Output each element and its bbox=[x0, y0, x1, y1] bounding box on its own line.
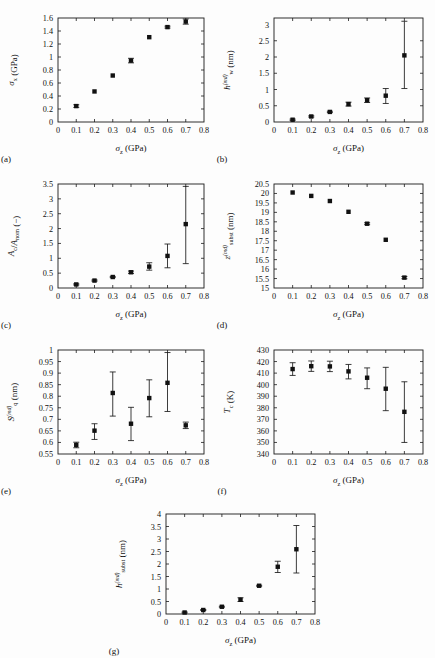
x-axis-label: σz (GPa) bbox=[333, 143, 364, 155]
y-tick-label: 0.55 bbox=[39, 450, 53, 459]
y-tick-label: 0 bbox=[265, 118, 269, 127]
panel-g: 00.10.20.30.40.50.60.70.800.511.522.533.… bbox=[108, 500, 327, 658]
plot-frame bbox=[58, 18, 204, 122]
data-point-marker bbox=[184, 222, 188, 226]
data-point-marker bbox=[402, 53, 406, 57]
x-tick-label: 0 bbox=[272, 126, 276, 135]
x-tick-label: 0.3 bbox=[325, 292, 335, 301]
data-point-marker bbox=[111, 275, 115, 279]
y-tick-label: 0.8 bbox=[43, 66, 53, 75]
x-tick-label: 0.3 bbox=[217, 618, 227, 627]
x-tick-label: 0.7 bbox=[399, 126, 409, 135]
y-tick-label: 0.75 bbox=[39, 404, 53, 413]
x-tick-label: 0.4 bbox=[126, 126, 136, 135]
panel-b: 00.10.20.30.40.50.60.70.800.511.522.53σz… bbox=[216, 4, 435, 166]
x-tick-label: 0.1 bbox=[71, 292, 81, 301]
data-point-marker bbox=[129, 58, 133, 62]
x-tick-label: 0.4 bbox=[235, 618, 245, 627]
x-tick-label: 0.1 bbox=[288, 126, 298, 135]
data-point-marker bbox=[384, 387, 388, 391]
y-tick-label: 20.5 bbox=[255, 180, 269, 189]
x-tick-label: 0.1 bbox=[288, 458, 298, 467]
y-axis-label: Ac/Anom (−) bbox=[6, 216, 21, 258]
y-axis-label: σx (GPa) bbox=[6, 54, 19, 85]
data-series bbox=[182, 526, 300, 615]
data-point-marker bbox=[129, 422, 133, 426]
y-tick-label: 17.5 bbox=[255, 237, 269, 246]
data-point-marker bbox=[290, 190, 294, 194]
panel-plot-b: 00.10.20.30.40.50.60.70.800.511.522.53σz… bbox=[216, 4, 435, 166]
y-tick-label: 0.7 bbox=[43, 415, 53, 424]
data-point-marker bbox=[257, 584, 261, 588]
y-tick-label: 0.6 bbox=[43, 79, 53, 88]
data-point-marker bbox=[294, 547, 298, 551]
x-tick-label: 0.4 bbox=[343, 458, 353, 467]
data-point-marker bbox=[92, 428, 96, 432]
x-tick-label: 0.5 bbox=[362, 458, 372, 467]
y-tick-label: 20 bbox=[261, 189, 269, 198]
y-tick-label: 4 bbox=[157, 510, 161, 519]
panel-plot-d: 00.10.20.30.40.50.60.70.81515.51616.5171… bbox=[216, 170, 435, 332]
y-tick-label: 2 bbox=[265, 53, 269, 62]
y-tick-label: 2 bbox=[49, 225, 53, 234]
data-point-marker bbox=[92, 89, 96, 93]
panel-tag-e: (e) bbox=[1, 486, 11, 496]
y-tick-label: 350 bbox=[257, 438, 269, 447]
x-tick-label: 0 bbox=[272, 292, 276, 301]
x-axis-label: σz (GPa) bbox=[115, 309, 146, 321]
x-tick-label: 0.3 bbox=[108, 292, 118, 301]
y-tick-label: 0.65 bbox=[39, 427, 53, 436]
x-tick-label: 0.6 bbox=[162, 292, 172, 301]
x-tick-label: 0 bbox=[56, 458, 60, 467]
panel-tag-b: (b) bbox=[217, 154, 228, 164]
x-tick-label: 0.8 bbox=[418, 458, 428, 467]
x-tick-label: 0.1 bbox=[288, 292, 298, 301]
y-tick-label: 1 bbox=[49, 346, 53, 355]
data-series bbox=[73, 353, 189, 448]
y-tick-label: 380 bbox=[257, 404, 269, 413]
y-tick-label: 16 bbox=[261, 265, 269, 274]
x-tick-label: 0.2 bbox=[89, 126, 99, 135]
x-tick-label: 0.5 bbox=[362, 126, 372, 135]
x-tick-label: 0.4 bbox=[126, 458, 136, 467]
data-point-marker bbox=[384, 93, 388, 97]
y-tick-label: 400 bbox=[257, 381, 269, 390]
y-tick-label: 370 bbox=[257, 415, 269, 424]
x-tick-label: 0.3 bbox=[108, 458, 118, 467]
data-point-marker bbox=[346, 102, 350, 106]
y-tick-label: 0.6 bbox=[43, 438, 53, 447]
data-point-marker bbox=[111, 73, 115, 77]
x-tick-label: 0.2 bbox=[89, 292, 99, 301]
y-tick-label: 0 bbox=[49, 284, 53, 293]
x-tick-label: 0 bbox=[164, 618, 168, 627]
data-point-marker bbox=[328, 110, 332, 114]
x-tick-label: 0.1 bbox=[180, 618, 190, 627]
data-point-marker bbox=[201, 608, 205, 612]
x-tick-label: 0 bbox=[56, 126, 60, 135]
y-axis-label: S(md) q (nm) bbox=[6, 383, 19, 421]
y-tick-label: 410 bbox=[257, 369, 269, 378]
y-tick-label: 2 bbox=[157, 560, 161, 569]
y-tick-label: 0 bbox=[49, 118, 53, 127]
data-point-marker bbox=[111, 391, 115, 395]
data-point-marker bbox=[346, 369, 350, 373]
panel-tag-g: (g) bbox=[109, 646, 120, 656]
x-tick-label: 0.7 bbox=[399, 458, 409, 467]
x-tick-label: 0.8 bbox=[418, 292, 428, 301]
x-tick-label: 0.5 bbox=[362, 292, 372, 301]
data-point-marker bbox=[147, 264, 151, 268]
data-point-marker bbox=[309, 194, 313, 198]
data-point-marker bbox=[365, 222, 369, 226]
data-point-marker bbox=[182, 610, 186, 614]
plot-frame bbox=[274, 184, 423, 288]
y-tick-label: 16.5 bbox=[255, 256, 269, 265]
x-tick-label: 0.5 bbox=[144, 292, 154, 301]
x-tick-label: 0.2 bbox=[198, 618, 208, 627]
data-point-marker bbox=[74, 104, 78, 108]
x-tick-label: 0.7 bbox=[291, 618, 301, 627]
y-tick-label: 0.5 bbox=[43, 269, 53, 278]
y-tick-label: 3.5 bbox=[43, 180, 53, 189]
y-tick-label: 360 bbox=[257, 427, 269, 436]
data-point-marker bbox=[309, 114, 313, 118]
data-point-marker bbox=[147, 396, 151, 400]
